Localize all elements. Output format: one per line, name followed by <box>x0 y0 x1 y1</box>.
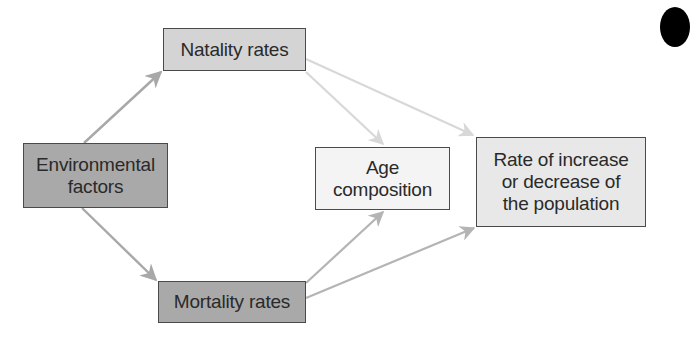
node-label-line-1: Rate of increase <box>493 149 628 171</box>
node-mortality-rates: Mortality rates <box>158 281 306 323</box>
node-label-line-1: Environmental <box>36 154 155 176</box>
node-label-line-2: composition <box>333 179 432 201</box>
node-label-line-1: Age <box>333 157 432 179</box>
node-age-composition: Age composition <box>315 147 450 210</box>
corner-mark-icon <box>660 7 690 47</box>
node-natality-rates: Natality rates <box>163 28 306 71</box>
node-rate-of-change: Rate of increase or decrease of the popu… <box>476 137 646 227</box>
arrow-natality-to-age <box>306 72 383 144</box>
node-label-line-3: the population <box>493 193 628 215</box>
arrow-mortality-to-age <box>306 212 383 283</box>
node-label: Natality rates <box>180 39 288 61</box>
arrow-natality-to-rate <box>306 59 473 135</box>
arrow-environmental-to-mortality <box>82 208 156 280</box>
arrow-environmental-to-natality <box>84 72 161 143</box>
node-environmental-factors: Environmental factors <box>23 143 168 208</box>
arrow-mortality-to-rate <box>306 228 474 298</box>
node-label-line-2: factors <box>36 176 155 198</box>
node-label-line-2: or decrease of <box>493 171 628 193</box>
node-label: Mortality rates <box>174 291 290 313</box>
